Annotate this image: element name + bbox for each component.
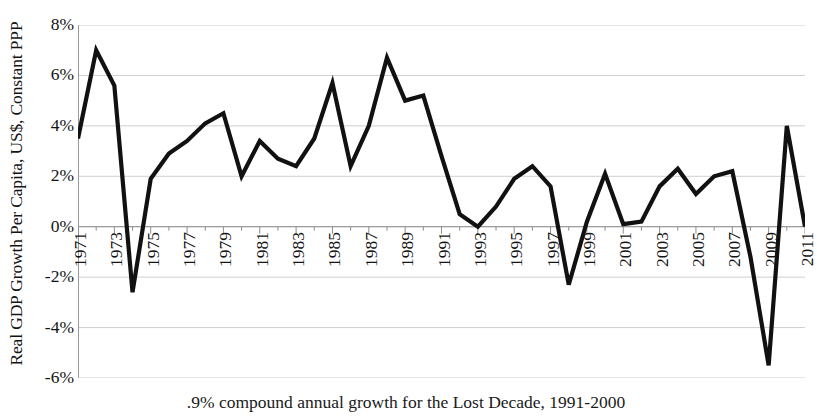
x-axis-tick-label: 1987 [363,232,381,306]
x-axis-tick-label: 2001 [617,232,635,306]
x-axis-tick-label: 1985 [326,232,344,306]
y-axis-tick-label: -2% [28,268,74,286]
x-axis-tick-label: 1989 [399,232,417,306]
x-axis-tick-label: 1995 [508,232,526,306]
x-axis-tick-label: 1975 [145,232,163,306]
x-axis-tick-label: 1999 [581,232,599,306]
y-axis-tick-label: -4% [28,319,74,337]
x-axis-tick-label: 1981 [254,232,272,306]
x-axis-tick-label: 1993 [472,232,490,306]
x-axis-tick-label: 1991 [436,232,454,306]
y-axis-tick-label: 2% [28,167,74,185]
x-axis-tick-label: 2007 [726,232,744,306]
x-axis-tick-label: 1983 [290,232,308,306]
y-axis-tick-label: 6% [28,66,74,84]
x-axis-tick-label: 2009 [763,232,781,306]
x-axis-tick-label: 1971 [72,232,90,306]
y-axis-tick-label: 8% [28,16,74,34]
y-axis-tick-labels: 8%6%4%2%0%-2%-4%-6% [24,0,74,400]
x-axis-tick-label: 1977 [181,232,199,306]
chart-caption: .9% compound annual growth for the Lost … [0,392,812,413]
x-axis-tick-label: 2003 [654,232,672,306]
y-axis-tick-label: 4% [28,117,74,135]
x-axis-tick-label: 2011 [799,232,817,306]
y-axis-tick-label: -6% [28,369,74,387]
x-axis-tick-label: 2005 [690,232,708,306]
x-axis-tick-label: 1997 [545,232,563,306]
y-axis-tick-label: 0% [28,218,74,236]
x-axis-tick-labels: 1971197319751977197919811983198519871989… [78,232,812,352]
x-axis-tick-label: 1979 [217,232,235,306]
x-axis-tick-label: 1973 [108,232,126,306]
